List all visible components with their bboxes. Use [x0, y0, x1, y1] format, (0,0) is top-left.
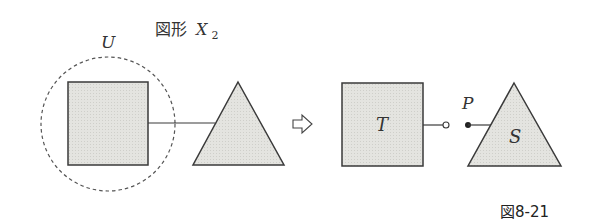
circle-label-u: U	[101, 32, 116, 52]
right-figure: T P S	[342, 83, 561, 166]
left-figure: U	[41, 32, 284, 191]
title-var: X	[194, 20, 208, 39]
point-label-p: P	[461, 93, 474, 113]
title-sub: 2	[211, 29, 218, 42]
figure-title: 図形 X 2	[155, 20, 218, 42]
square-label-t: T	[376, 114, 390, 135]
open-endpoint	[443, 122, 449, 128]
left-square	[68, 82, 148, 165]
title-prefix: 図形	[155, 20, 187, 39]
diagram-canvas: 図形 X 2 U T P S 図8-21	[0, 0, 598, 223]
figure-caption: 図8-21	[500, 203, 549, 221]
hollow-right-arrow-icon	[293, 115, 312, 133]
triangle-label-s: S	[509, 126, 521, 147]
